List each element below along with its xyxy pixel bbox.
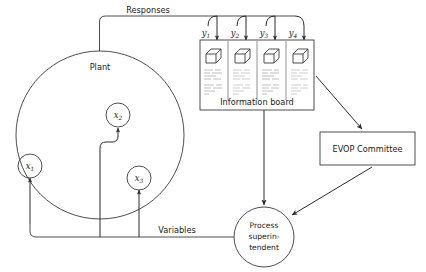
superintendent-line1: Process — [250, 221, 279, 230]
superintendent-line2: superin- — [248, 232, 279, 241]
variables-label: Variables — [158, 225, 195, 235]
information-board: Information board — [200, 40, 314, 110]
information-board-label: Information board — [220, 97, 294, 107]
evop-committee-node: EVOP Committee — [320, 132, 415, 165]
plant-label: Plant — [90, 62, 111, 72]
superintendent-line3: tendent — [249, 243, 279, 252]
evop-committee-label: EVOP Committee — [332, 144, 402, 154]
responses-label: Responses — [126, 5, 170, 15]
diagram-canvas: Information board y1 y2 y3 y4 Responses … — [0, 0, 426, 272]
